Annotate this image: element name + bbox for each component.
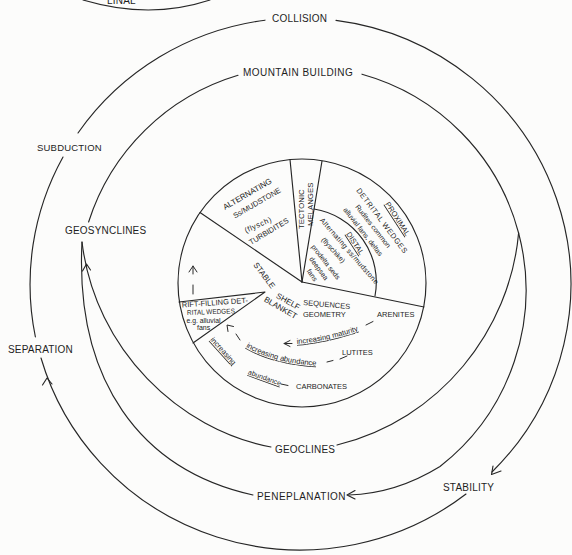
outer-cycle: COLLISION SUBDUCTION SEPARATION STABILIT… xyxy=(8,13,571,550)
flysch-sector: ALTERNATING Ss/MUDSTONE (flysch) TURBIDI… xyxy=(222,177,291,247)
outer-arc-collision-subduction xyxy=(78,20,265,133)
top-fragment-label: LINAL xyxy=(107,0,136,6)
rift-filling-wedge: RIFT-FILLING DET- RITAL WEDGES e.g. allu… xyxy=(182,296,249,331)
geometry-label: GEOMETRY xyxy=(303,310,346,319)
carbonate-trend-abundance: abundance xyxy=(247,368,282,386)
dash-mark xyxy=(327,361,333,363)
dash-mark xyxy=(236,334,240,340)
maturity-trend-text: increasing maturity xyxy=(296,324,359,346)
mountain-arc-left xyxy=(89,75,238,222)
carbonate-trend-increasing: increasing xyxy=(209,335,239,366)
top-fragment: LINAL xyxy=(83,0,210,10)
separation-label: SEPARATION xyxy=(8,344,73,355)
melange-sector: TECTONIC MELANGES xyxy=(297,183,315,229)
geoclines-label: GEOCLINES xyxy=(275,444,335,455)
dash-mark xyxy=(281,384,288,386)
dash-mark xyxy=(366,322,373,326)
tectonic-cycle-diagram: LINAL COLLISION SUBDUCTION SEPARATION ST… xyxy=(0,0,572,555)
top-ellipse-fragment xyxy=(83,0,210,10)
collision-label: COLLISION xyxy=(272,13,327,24)
sediment-pie: ALTERNATING Ss/MUDSTONE (flysch) TURBIDI… xyxy=(178,159,426,407)
up-left-arrow-icon xyxy=(227,325,234,332)
mountain-arc-right xyxy=(362,74,519,233)
detrital-wedges-sector: PROXIMAL DETRITAL WEDGES Rudites common … xyxy=(306,186,412,286)
up-arrow-icon xyxy=(189,266,197,274)
stable-label: STABLE xyxy=(251,261,276,290)
melange-line-2: MELANGES xyxy=(306,183,315,226)
carbonates-label: CARBONATES xyxy=(296,382,347,391)
geoclines-arc-left xyxy=(82,242,271,447)
outer-arc-subduction-separation xyxy=(30,157,63,337)
maturity-trend-textpath: increasing maturity xyxy=(296,324,359,346)
rift-line-2: RITAL WEDGES xyxy=(187,307,236,316)
subduction-label: SUBDUCTION xyxy=(37,142,102,153)
peneplanation-arc-left xyxy=(81,242,253,495)
outer-arc-separation-stability xyxy=(41,358,466,550)
peneplanation-label: PENEPLANATION xyxy=(257,491,346,502)
geosynclines-label: GEOSYNCLINES xyxy=(65,225,146,236)
mountain-building-label: MOUNTAIN BUILDING xyxy=(243,67,353,78)
rift-line-4: fans xyxy=(197,324,211,331)
inner-cycle: MOUNTAIN BUILDING GEOSYNCLINES GEOCLINES… xyxy=(65,67,526,502)
left-arrow-icon xyxy=(284,341,292,347)
stability-label: STABILITY xyxy=(443,482,494,493)
arenites-label: ARENITES xyxy=(377,310,415,319)
lithology-labels: ARENITES LUTITES CARBONATES xyxy=(296,310,415,391)
